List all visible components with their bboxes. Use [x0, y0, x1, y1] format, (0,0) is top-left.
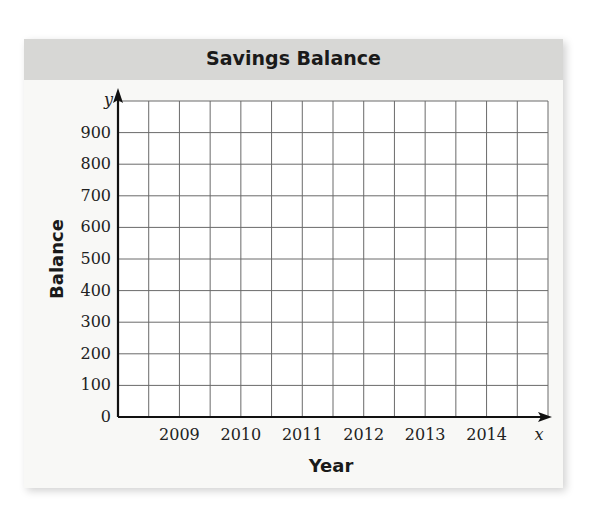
y-tick-label: 900	[80, 123, 111, 142]
y-tick-label: 100	[80, 375, 111, 394]
x-axis-title: Year	[308, 455, 354, 476]
x-tick-label: 2014	[466, 425, 507, 444]
x-tick-label: 2009	[159, 425, 200, 444]
x-tick-label: 2010	[220, 425, 261, 444]
x-axis-symbol: x	[534, 425, 543, 444]
y-axis-title: Balance	[46, 219, 67, 299]
plot-area: 0100200300400500600700800900200920102011…	[0, 0, 592, 525]
y-axis-symbol: y	[103, 90, 114, 109]
x-tick-label: 2012	[343, 425, 384, 444]
y-tick-label: 800	[80, 154, 111, 173]
y-tick-label: 600	[80, 217, 111, 236]
y-tick-label: 400	[80, 281, 111, 300]
y-tick-label: 300	[80, 312, 111, 331]
y-tick-label: 0	[101, 407, 111, 426]
x-tick-label: 2011	[282, 425, 323, 444]
x-tick-label: 2013	[405, 425, 446, 444]
y-tick-label: 700	[80, 186, 111, 205]
y-tick-label: 200	[80, 344, 111, 363]
y-tick-label: 500	[80, 249, 111, 268]
